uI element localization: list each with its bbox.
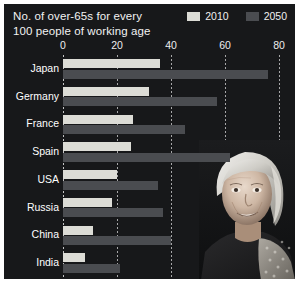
category-label-japan: Japan [30, 62, 59, 74]
bar-india-2010 [63, 253, 85, 262]
chart-panel: No. of over-65s for every 100 people of … [4, 3, 295, 280]
x-tick-label-0: 0 [60, 39, 66, 51]
bar-russia-2010 [63, 198, 112, 207]
bar-usa-2050 [63, 181, 158, 190]
bar-row: India [4, 249, 295, 277]
category-label-usa: USA [37, 173, 59, 185]
bar-china-2050 [63, 236, 171, 245]
category-label-china: China [32, 228, 59, 240]
x-tick-label-60: 60 [219, 39, 231, 51]
x-axis-tick-labels: 020406080 [4, 39, 295, 53]
bar-usa-2010 [63, 170, 117, 179]
bar-germany-2010 [63, 87, 149, 96]
bar-row: France [4, 111, 295, 139]
bar-japan-2010 [63, 59, 160, 68]
chart-figure: No. of over-65s for every 100 people of … [0, 0, 299, 283]
bar-rows: JapanGermanyFranceSpainUSARussiaChinaInd… [4, 55, 295, 277]
bar-spain-2010 [63, 142, 131, 151]
bar-row: USA [4, 166, 295, 194]
bar-china-2010 [63, 226, 93, 235]
category-label-germany: Germany [16, 90, 59, 102]
bar-row: Germany [4, 83, 295, 111]
category-label-russia: Russia [27, 201, 59, 213]
bar-row: China [4, 222, 295, 250]
bar-spain-2050 [63, 153, 230, 162]
bar-japan-2050 [63, 70, 268, 79]
plot-area: 020406080 [4, 3, 295, 280]
bar-row: Spain [4, 138, 295, 166]
bar-russia-2050 [63, 208, 163, 217]
category-label-spain: Spain [32, 145, 59, 157]
bar-france-2050 [63, 125, 185, 134]
x-tick-label-20: 20 [111, 39, 123, 51]
bar-india-2050 [63, 264, 120, 273]
category-label-france: France [26, 117, 59, 129]
x-tick-label-80: 80 [273, 39, 285, 51]
bar-row: Russia [4, 194, 295, 222]
x-tick-label-40: 40 [165, 39, 177, 51]
bar-row: Japan [4, 55, 295, 83]
bar-germany-2050 [63, 97, 217, 106]
category-label-india: India [36, 256, 59, 268]
bar-france-2010 [63, 115, 133, 124]
